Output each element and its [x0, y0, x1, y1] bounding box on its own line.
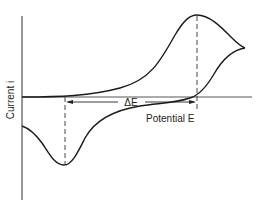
cyclic-voltammogram-diagram: ΔE Potential E Current i: [0, 0, 262, 210]
arrowhead-left-icon: [66, 100, 73, 104]
x-axis-label: Potential E: [146, 113, 195, 124]
delta-e-label: ΔE: [124, 97, 138, 108]
y-axis-label: Current i: [5, 81, 16, 119]
forward-sweep-curve: [22, 15, 245, 97]
arrowhead-right-icon: [189, 100, 196, 104]
